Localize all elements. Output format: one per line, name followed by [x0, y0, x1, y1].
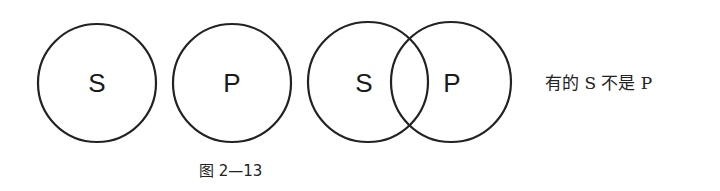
figure-caption: 图 2—13 — [199, 162, 262, 180]
label-s-separate: S — [88, 68, 105, 98]
panel-overlap: S P — [308, 22, 511, 142]
venn-diagram: S P S P 有的 S 不是 P 图 2—13 — [0, 0, 720, 191]
label-s-overlap: S — [355, 68, 372, 98]
label-p-overlap: P — [443, 68, 460, 98]
relation-description: 有的 S 不是 P — [545, 73, 652, 93]
label-p-separate: P — [223, 68, 240, 98]
panel-separate: S P — [38, 24, 291, 142]
